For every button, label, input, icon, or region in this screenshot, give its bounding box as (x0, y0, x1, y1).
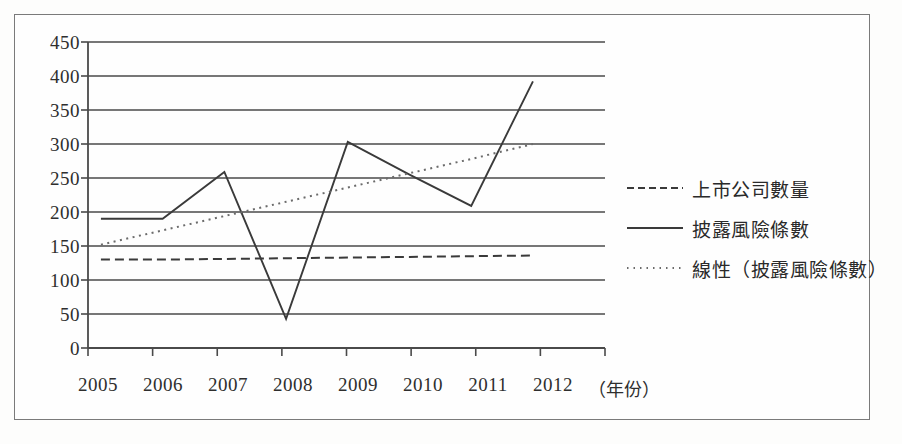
chart-legend: 上市公司數量 披露風險條數 線性（披露風險條數） (626, 168, 876, 288)
gridlines-group (88, 42, 605, 314)
legend-item-linear-trend[interactable]: 線性（披露風險條數） (626, 248, 876, 288)
legend-label-linear-trend: 線性（披露風險條數） (692, 255, 887, 282)
y-axis-ticks (81, 42, 88, 348)
legend-label-risk-disclosures: 披露風險條數 (692, 215, 809, 242)
y-tick-label-150: 150 (22, 236, 80, 258)
figure-container: 450 400 350 300 250 200 150 100 50 0 200… (0, 0, 902, 444)
dashed-line-icon (626, 181, 684, 195)
x-tick-label-2011: 2011 (457, 374, 519, 396)
x-tick-label-2008: 2008 (262, 374, 324, 396)
series-line (101, 81, 533, 318)
y-tick-label-0: 0 (22, 338, 80, 360)
y-tick-label-250: 250 (22, 168, 80, 190)
y-tick-label-300: 300 (22, 134, 80, 156)
data-series-group (101, 81, 533, 318)
x-tick-label-2006: 2006 (132, 374, 194, 396)
dotted-line-icon (626, 261, 684, 275)
x-axis-title: （年份） (588, 375, 660, 401)
legend-label-listed-companies: 上市公司數量 (692, 175, 809, 202)
series-line (101, 256, 533, 260)
x-tick-label-2012: 2012 (522, 374, 584, 396)
y-tick-label-50: 50 (22, 304, 80, 326)
y-tick-label-400: 400 (22, 66, 80, 88)
solid-line-icon (626, 221, 684, 235)
x-tick-label-2007: 2007 (197, 374, 259, 396)
x-axis-ticks (88, 348, 605, 356)
y-tick-label-100: 100 (22, 270, 80, 292)
legend-item-risk-disclosures[interactable]: 披露風險條數 (626, 208, 876, 248)
y-tick-label-450: 450 (22, 32, 80, 54)
x-tick-label-2005: 2005 (67, 374, 129, 396)
y-tick-label-350: 350 (22, 100, 80, 122)
x-tick-label-2010: 2010 (392, 374, 454, 396)
legend-item-listed-companies[interactable]: 上市公司數量 (626, 168, 876, 208)
x-tick-label-2009: 2009 (327, 374, 389, 396)
y-tick-label-200: 200 (22, 202, 80, 224)
